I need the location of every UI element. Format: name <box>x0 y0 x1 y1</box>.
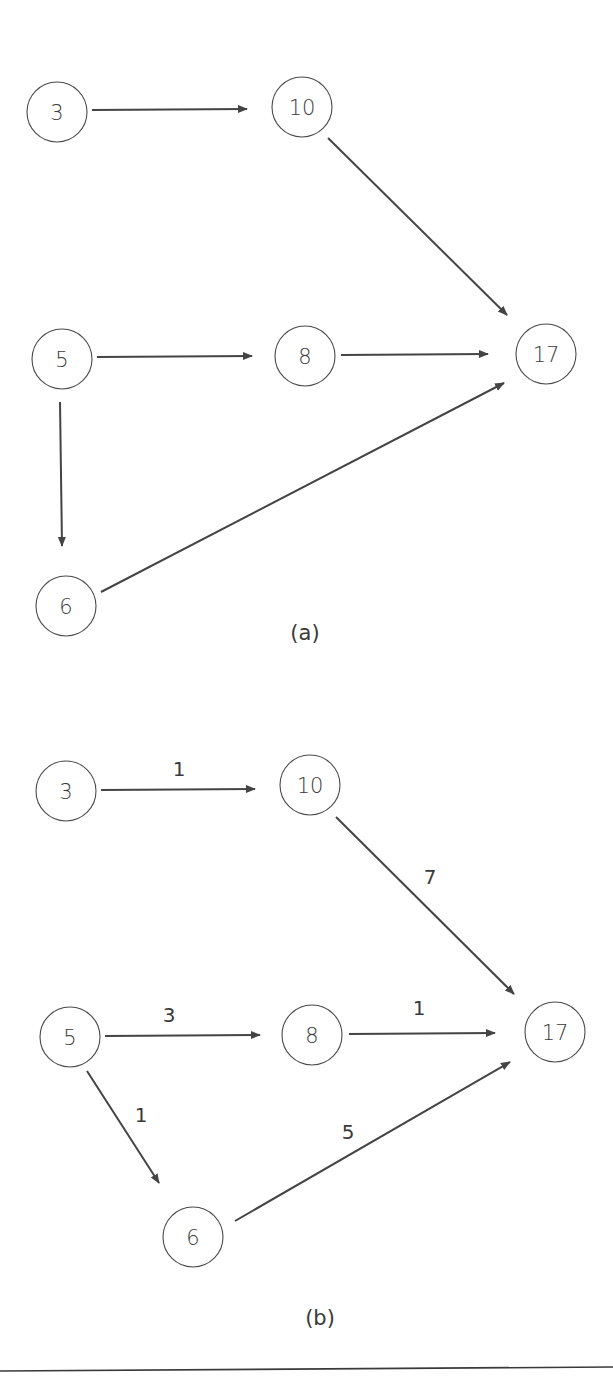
node-label: 8 <box>298 345 311 369</box>
node-3: 3 <box>27 82 87 142</box>
edge-5-to-6 <box>60 402 62 546</box>
node-5: 5 <box>40 1007 100 1067</box>
arrow-icon <box>235 1062 510 1221</box>
arrow-icon <box>101 383 504 592</box>
panel-a: 31058176(a) <box>27 77 576 645</box>
node-label: 6 <box>59 595 72 619</box>
node-6: 6 <box>163 1207 223 1267</box>
edge-10-to-17: 7 <box>336 817 514 994</box>
node-17: 17 <box>525 1002 585 1062</box>
panel-caption: (a) <box>290 621 319 645</box>
node-label: 6 <box>186 1226 199 1250</box>
edge-weight-label: 1 <box>173 757 186 781</box>
edge-6-to-17 <box>101 383 504 592</box>
arrow-icon <box>336 817 514 994</box>
node-label: 17 <box>542 1021 569 1045</box>
node-label: 5 <box>63 1026 76 1050</box>
arrow-icon <box>105 1035 260 1036</box>
node-6: 6 <box>36 576 96 636</box>
node-label: 10 <box>289 96 316 120</box>
node-label: 3 <box>59 780 72 804</box>
edge-10-to-17 <box>328 138 507 315</box>
node-label: 5 <box>55 348 68 372</box>
edge-weight-label: 3 <box>163 1003 176 1027</box>
panel-b: 17311531058176(b) <box>36 755 585 1330</box>
arrow-icon <box>349 1033 495 1034</box>
node-label: 3 <box>50 101 63 125</box>
arrow-icon <box>87 1071 159 1183</box>
arrow-icon <box>341 354 488 355</box>
edge-8-to-17: 1 <box>349 996 495 1034</box>
edge-8-to-17 <box>341 354 488 355</box>
edge-weight-label: 1 <box>135 1103 148 1127</box>
edge-6-to-17: 5 <box>235 1062 510 1221</box>
edge-weight-label: 7 <box>424 865 437 889</box>
node-label: 10 <box>297 774 324 798</box>
node-10: 10 <box>280 755 340 815</box>
edge-5-to-6: 1 <box>87 1071 159 1183</box>
arrow-icon <box>60 402 62 546</box>
bottom-rule <box>0 1367 613 1371</box>
panel-caption: (b) <box>305 1306 335 1330</box>
edge-3-to-10 <box>92 109 247 110</box>
edge-5-to-8 <box>97 356 252 357</box>
node-8: 8 <box>275 326 335 386</box>
arrow-icon <box>328 138 507 315</box>
node-17: 17 <box>516 324 576 384</box>
edge-3-to-10: 1 <box>101 757 255 790</box>
graph-figure: 31058176(a) 17311531058176(b) <box>0 0 613 1391</box>
edge-weight-label: 1 <box>413 996 426 1020</box>
arrow-icon <box>92 109 247 110</box>
node-3: 3 <box>36 761 96 821</box>
node-10: 10 <box>272 77 332 137</box>
arrow-icon <box>97 356 252 357</box>
node-label: 17 <box>533 343 560 367</box>
node-5: 5 <box>32 329 92 389</box>
arrow-icon <box>101 789 255 790</box>
edge-weight-label: 5 <box>342 1120 355 1144</box>
node-label: 8 <box>305 1024 318 1048</box>
edge-5-to-8: 3 <box>105 1003 260 1036</box>
node-8: 8 <box>282 1005 342 1065</box>
